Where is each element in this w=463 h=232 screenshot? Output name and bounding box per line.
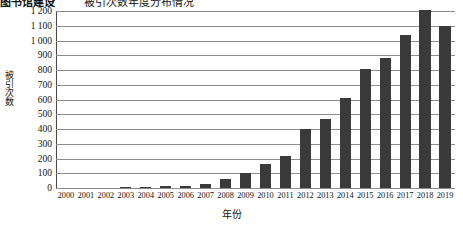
y-axis-tick-label: 400 [38,124,52,134]
chart-title: 被引次数年度分布情况 [84,0,194,9]
x-axis-tick-label: 2019 [437,190,454,202]
bar [160,186,171,188]
x-axis-tick-label: 2000 [58,190,75,202]
x-axis-tick-label: 2016 [377,190,394,202]
x-axis-tick-label: 2013 [317,190,334,202]
y-axis-tick-label: 100 [38,168,52,178]
x-axis-tick-label: 2006 [177,190,194,202]
x-axis-tick-label: 2017 [397,190,414,202]
y-axis-tick-label: 1 100 [31,21,52,31]
y-axis-tick-label: 1 000 [31,36,52,46]
x-axis-tick-labels: 2000200120022003200420052006200720082009… [56,190,455,204]
citation-bar-chart-figure: 图书馆建设 被引次数年度分布情况 被引次数 1 2001 1001 000900… [0,0,463,232]
x-axis-tick-label: 2018 [417,190,434,202]
y-axis-tick-label: 500 [38,109,52,119]
bar [380,58,391,188]
x-axis-tick-label: 2005 [157,190,174,202]
y-axis-tick-label: 0 [47,183,52,193]
bar [300,129,311,188]
y-axis-tick-label: 300 [38,139,52,149]
bar [280,156,291,188]
bar [340,98,351,188]
x-axis-tick-label: 2014 [337,190,354,202]
bar [140,187,151,188]
x-axis-tick-label: 2008 [217,190,234,202]
bar [400,35,411,188]
bar [360,69,371,188]
x-axis-tick-label: 2012 [297,190,314,202]
y-axis-tick-label: 200 [38,154,52,164]
chart-title-strip: 图书馆建设 被引次数年度分布情况 [0,0,463,9]
bar [220,179,231,188]
x-axis-tick-label: 2003 [118,190,135,202]
x-axis-tick-label: 2015 [357,190,374,202]
y-axis-tick-label: 600 [38,95,52,105]
x-axis-tick-label: 2010 [257,190,274,202]
bar [320,119,331,188]
y-axis-tick-label: 800 [38,65,52,75]
bar [419,10,430,188]
x-axis-tick-label: 2011 [277,190,293,202]
x-axis-tick-label: 2004 [137,190,154,202]
bar [260,164,271,188]
bar [180,186,191,188]
x-axis-title: 年份 [0,206,463,221]
y-axis-tick-label: 700 [38,80,52,90]
x-axis-tick-label: 2002 [98,190,115,202]
bar [240,173,251,188]
bar [200,184,211,188]
bar-series [56,11,455,189]
y-axis-tick-labels: 1 2001 1001 0009008007006005004003002001… [14,0,55,195]
y-axis-tick-label: 1 200 [31,6,52,16]
y-axis-title: 被引次数 [0,70,14,106]
bar [439,26,450,188]
x-axis-tick-label: 2001 [78,190,95,202]
bar [120,187,131,188]
plot-area [56,11,455,188]
x-axis-tick-label: 2007 [197,190,214,202]
y-axis-tick-label: 900 [38,50,52,60]
x-axis-tick-label: 2009 [237,190,254,202]
